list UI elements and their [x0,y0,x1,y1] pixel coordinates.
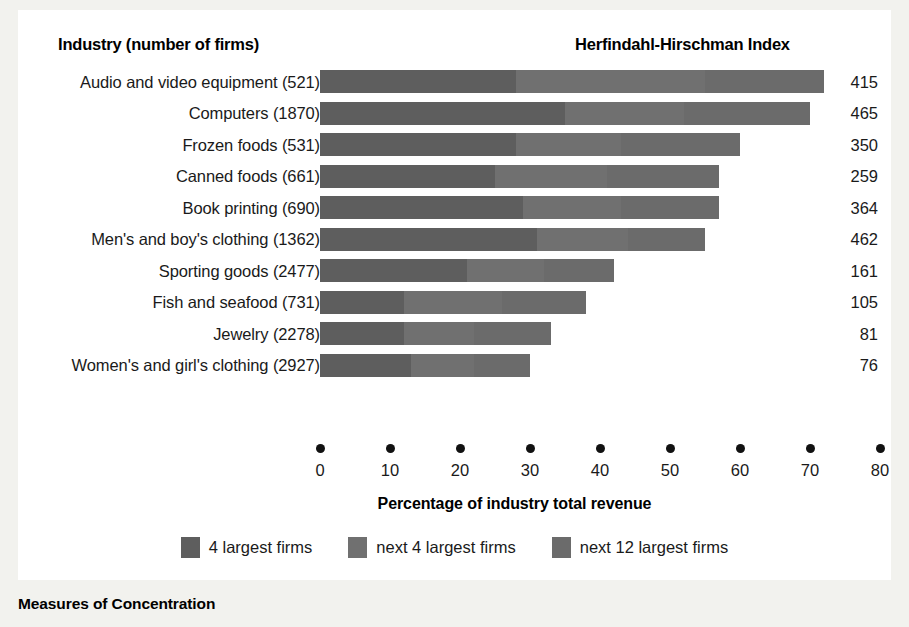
bar-segment-2 [516,133,621,156]
stacked-bar [320,133,740,156]
bar-segment-3 [621,196,719,219]
stacked-bar [320,102,810,125]
row-category-label: Jewelry (2278) [213,324,320,343]
hhi-value: 465 [818,104,878,123]
bar-segment-3 [628,228,705,251]
hhi-value: 462 [818,230,878,249]
axis-tick-dot [876,444,885,453]
bar-segment-1 [320,165,495,188]
bar-segment-3 [621,133,740,156]
bar-segment-1 [320,354,411,377]
x-axis: 01020304050607080 [320,444,880,490]
chart-panel: Industry (number of firms) Herfindahl-Hi… [18,10,891,580]
stacked-bar [320,354,530,377]
row-category-label: Book printing (690) [182,198,320,217]
column-header-industry: Industry (number of firms) [58,35,259,54]
chart-row: Jewelry (2278)81 [18,318,891,350]
row-category-label: Canned foods (661) [176,167,320,186]
legend-label: 4 largest firms [209,538,313,557]
chart-row: Frozen foods (531)350 [18,129,891,161]
axis-tick-dot [666,444,675,453]
column-header-hhi: Herfindahl-Hirschman Index [575,35,790,54]
axis-tick-label: 30 [510,461,550,480]
hhi-value: 259 [818,167,878,186]
bar-segment-2 [537,228,628,251]
row-category-label: Men's and boy's clothing (1362) [91,230,320,249]
hhi-value: 105 [818,293,878,312]
row-category-label: Fish and seafood (731) [153,293,321,312]
axis-tick-label: 10 [370,461,410,480]
axis-tick-dot [596,444,605,453]
stacked-bar [320,228,705,251]
legend-swatch-1 [181,537,200,558]
chart-row: Book printing (690)364 [18,192,891,224]
axis-tick-dot [386,444,395,453]
axis-tick-dot [526,444,535,453]
axis-tick-dot [456,444,465,453]
x-axis-title: Percentage of industry total revenue [18,495,891,513]
hhi-value: 81 [818,324,878,343]
legend-label: next 4 largest firms [376,538,515,557]
bar-segment-2 [404,291,502,314]
hhi-value: 76 [818,356,878,375]
bar-segment-1 [320,196,523,219]
bar-segment-1 [320,228,537,251]
row-category-label: Women's and girl's clothing (2927) [72,356,320,375]
bar-segment-3 [474,354,530,377]
axis-tick-label: 20 [440,461,480,480]
chart-row: Fish and seafood (731)105 [18,287,891,319]
bar-segment-2 [523,196,621,219]
hhi-value: 350 [818,135,878,154]
bar-segment-3 [474,322,551,345]
legend-swatch-2 [348,537,367,558]
bar-segment-3 [502,291,586,314]
chart-row: Women's and girl's clothing (2927)76 [18,350,891,382]
axis-tick-label: 80 [860,461,900,480]
stacked-bar [320,259,614,282]
axis-tick-dot [316,444,325,453]
legend-label: next 12 largest firms [580,538,729,557]
bar-segment-3 [705,70,824,93]
row-category-label: Computers (1870) [189,104,320,123]
stacked-bar [320,291,586,314]
stacked-bar [320,165,719,188]
bar-segment-2 [411,354,474,377]
axis-tick-label: 50 [650,461,690,480]
bar-segment-1 [320,259,467,282]
axis-tick-label: 60 [720,461,760,480]
chart-row: Men's and boy's clothing (1362)462 [18,224,891,256]
chart-row: Sporting goods (2477)161 [18,255,891,287]
stacked-bar [320,70,824,93]
bar-segment-2 [495,165,607,188]
hhi-value: 161 [818,261,878,280]
bar-segment-2 [516,70,705,93]
bar-rows: Audio and video equipment (521)415Comput… [18,66,891,381]
bar-segment-1 [320,102,565,125]
axis-tick-dot [736,444,745,453]
hhi-value: 364 [818,198,878,217]
stacked-bar [320,322,551,345]
figure-caption: Measures of Concentration [18,595,215,613]
bar-segment-3 [684,102,810,125]
chart-row: Audio and video equipment (521)415 [18,66,891,98]
row-category-label: Frozen foods (531) [182,135,320,154]
x-axis-title-text: Percentage of industry total revenue [258,495,652,512]
axis-tick-label: 70 [790,461,830,480]
bar-segment-3 [544,259,614,282]
axis-tick-label: 40 [580,461,620,480]
bar-segment-2 [404,322,474,345]
hhi-value: 415 [818,72,878,91]
chart-row: Canned foods (661)259 [18,161,891,193]
legend-item: 4 largest firms [181,537,313,558]
axis-tick-label: 0 [300,461,340,480]
legend-item: next 4 largest firms [348,537,515,558]
legend-swatch-3 [552,537,571,558]
bar-segment-1 [320,291,404,314]
bar-segment-1 [320,322,404,345]
row-category-label: Sporting goods (2477) [159,261,320,280]
bar-segment-1 [320,70,516,93]
bar-segment-2 [467,259,544,282]
stacked-bar [320,196,719,219]
chart-legend: 4 largest firmsnext 4 largest firmsnext … [18,537,891,558]
bar-segment-3 [607,165,719,188]
